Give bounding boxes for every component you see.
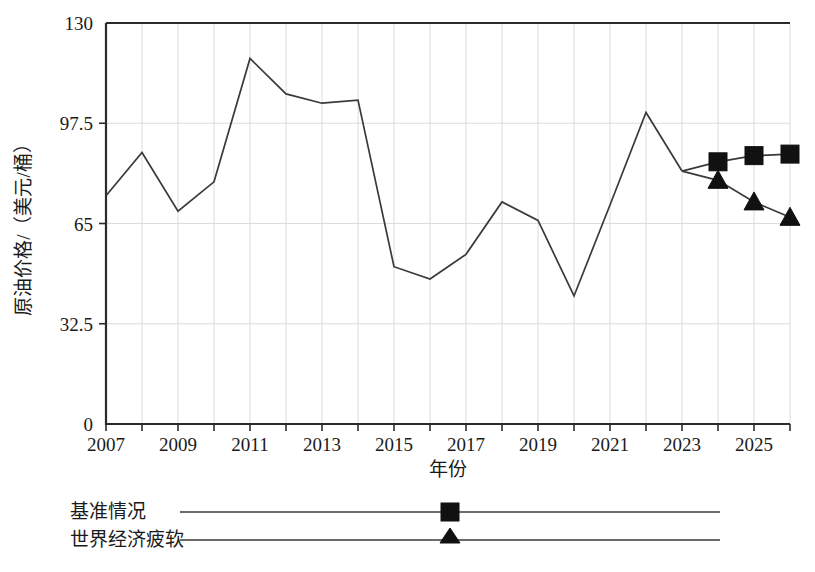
data-marker-square [709,153,727,171]
x-tick-label: 2011 [231,434,268,455]
y-tick-label: 65 [74,214,93,235]
x-tick-label: 2009 [159,434,197,455]
x-tick-group: 2007200920112013201520172019202120232025 [87,424,790,455]
figure-container: 032.56597.5130 2007200920112013201520172… [0,0,815,572]
legend-label-baseline: 基准情况 [70,501,146,522]
series-line-square [682,154,790,171]
x-tick-label: 2019 [519,434,557,455]
series-line-triangle [682,171,790,217]
series-group [106,58,790,296]
y-tick-label: 0 [84,414,94,435]
y-tick-label: 130 [65,13,94,34]
x-axis-title: 年份 [429,459,467,480]
x-tick-label: 2015 [375,434,413,455]
legend-marker-triangle [440,528,460,543]
y-tick-label: 32.5 [60,314,93,335]
gridlines [106,23,790,424]
legend-label-weak-economy: 世界经济疲软 [70,529,184,550]
x-tick-label: 2007 [87,434,125,455]
legend-marker-square [441,503,459,521]
data-marker-square [781,145,799,163]
y-tick-label: 97.5 [60,113,93,134]
data-marker-triangle [780,207,800,225]
y-tick-group: 032.56597.5130 [60,13,106,435]
data-marker-triangle [744,192,764,210]
data-marker-square [745,147,763,165]
x-tick-label: 2023 [663,434,701,455]
x-tick-label: 2025 [735,434,773,455]
x-tick-label: 2013 [303,434,341,455]
y-axis-title: 原油价格/（美元/桶） [13,134,34,316]
legend: 基准情况 世界经济疲软 [70,501,720,550]
oil-price-chart: 032.56597.5130 2007200920112013201520172… [0,0,815,572]
x-tick-label: 2017 [447,434,485,455]
x-tick-label: 2021 [591,434,629,455]
